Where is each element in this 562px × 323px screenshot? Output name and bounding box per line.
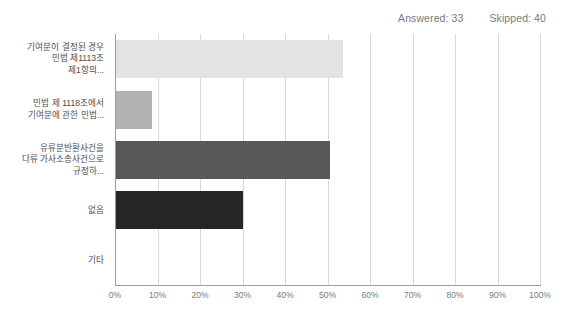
skipped-count: Skipped: 40 — [489, 12, 546, 24]
category-label: 기타 — [0, 255, 104, 267]
faded-title-text — [132, 0, 362, 6]
gridline — [540, 34, 541, 286]
x-tick-label: 50% — [319, 290, 336, 300]
x-tick-label: 60% — [361, 290, 378, 300]
x-tick-label: 10% — [149, 290, 166, 300]
x-tick-label: 0% — [109, 290, 121, 300]
category-axis-labels: 기여분이 결정된 경우 민법 제1113조 제1항의...민법 제 1118조에… — [0, 34, 110, 286]
x-tick-label: 30% — [234, 290, 251, 300]
bar — [115, 40, 343, 78]
plot-area — [115, 34, 540, 286]
x-tick-label: 70% — [404, 290, 421, 300]
bar — [115, 91, 152, 129]
x-axis-tick-labels: 0%10%20%30%40%50%60%70%80%90%100% — [115, 290, 540, 306]
category-label: 유류분반환사건을 다류 가사소송사건으로 규정하... — [0, 143, 104, 178]
x-tick-label: 40% — [276, 290, 293, 300]
bar — [115, 191, 243, 229]
response-summary: Answered: 33 Skipped: 40 — [398, 12, 546, 24]
y-axis-line — [115, 34, 116, 286]
answered-count: Answered: 33 — [398, 12, 463, 24]
category-label: 없음 — [0, 205, 104, 217]
bars — [115, 34, 540, 286]
survey-bar-chart: Answered: 33 Skipped: 40 기여분이 결정된 경우 민법 … — [0, 0, 562, 323]
x-tick-label: 100% — [529, 290, 551, 300]
x-tick-label: 80% — [446, 290, 463, 300]
category-label: 민법 제 1118조에서 기여분에 관한 민법... — [0, 98, 104, 121]
x-tick-label: 20% — [191, 290, 208, 300]
x-axis-line — [115, 285, 541, 286]
bar — [115, 141, 330, 179]
x-tick-label: 90% — [489, 290, 506, 300]
category-label: 기여분이 결정된 경우 민법 제1113조 제1항의... — [0, 42, 104, 77]
